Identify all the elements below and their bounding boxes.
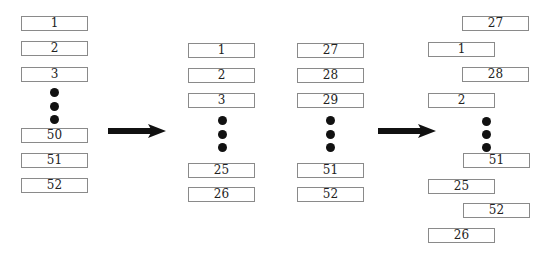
interleaved-deck-card: 2 <box>428 93 495 108</box>
original-deck-ellipsis-dot <box>50 115 59 124</box>
interleaved-deck-ellipsis-dot <box>482 143 491 152</box>
original-deck-card: 2 <box>21 41 88 56</box>
left-half-card: 2 <box>188 68 255 83</box>
left-half-card: 26 <box>188 187 255 202</box>
left-half-card: 3 <box>188 93 255 108</box>
split-halves-ellipsis-dot <box>326 116 335 125</box>
right-half-card: 29 <box>297 93 364 108</box>
original-deck-card: 1 <box>21 16 88 31</box>
interleave-arrow-icon <box>378 123 436 139</box>
original-deck-ellipsis-dot <box>50 102 59 111</box>
original-deck-card: 50 <box>21 128 88 143</box>
interleaved-deck-card: 28 <box>462 67 529 82</box>
split-halves-ellipsis-dot <box>218 116 227 125</box>
right-half-card: 28 <box>297 68 364 83</box>
interleaved-deck-ellipsis-dot <box>482 117 491 126</box>
interleaved-deck-card: 27 <box>462 16 529 31</box>
split-halves-ellipsis-dot <box>218 143 227 152</box>
original-deck-ellipsis-dot <box>50 88 59 97</box>
right-half-card: 52 <box>297 187 364 202</box>
interleaved-deck-card: 51 <box>463 153 530 168</box>
split-halves-ellipsis-dot <box>326 143 335 152</box>
right-half-card: 51 <box>297 163 364 178</box>
original-deck-card: 51 <box>21 153 88 168</box>
left-half-card: 1 <box>188 43 255 58</box>
split-arrow-icon <box>108 123 166 139</box>
original-deck-card: 3 <box>21 67 88 82</box>
left-half-card: 25 <box>188 163 255 178</box>
interleaved-deck-card: 25 <box>428 179 495 194</box>
interleaved-deck-ellipsis-dot <box>482 130 491 139</box>
interleaved-deck-card: 52 <box>463 203 530 218</box>
split-halves-ellipsis-dot <box>218 130 227 139</box>
interleaved-deck-card: 1 <box>428 42 495 57</box>
right-half-card: 27 <box>297 43 364 58</box>
original-deck-card: 52 <box>21 178 88 193</box>
interleaved-deck-card: 26 <box>428 228 495 243</box>
split-halves-ellipsis-dot <box>326 130 335 139</box>
